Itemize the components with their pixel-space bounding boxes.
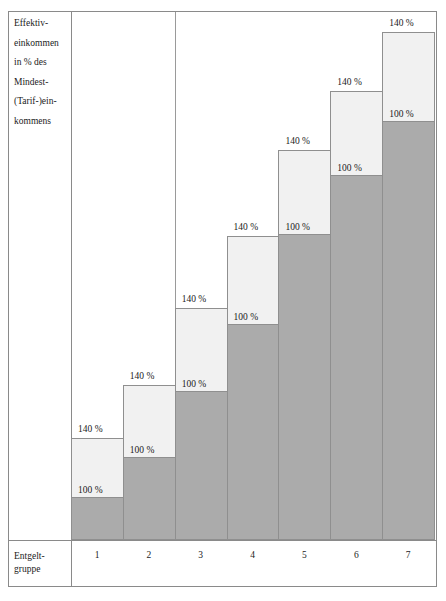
- y-axis-caption-line: Effektiv-: [14, 14, 70, 34]
- bar-label-lower-5: 100 %: [285, 222, 310, 232]
- bar-segment-lower-2: [123, 458, 176, 540]
- bar-segment-lower-4: [227, 325, 280, 540]
- footer-row-divider: [9, 540, 436, 541]
- bar-label-lower-6: 100 %: [337, 163, 362, 173]
- bar-segment-lower-6: [330, 176, 383, 540]
- bar-label-lower-7: 100 %: [389, 109, 414, 119]
- bar-group-6[interactable]: [330, 91, 383, 540]
- bar-group-4[interactable]: [227, 236, 280, 540]
- bar-label-upper-1: 140 %: [78, 424, 103, 434]
- clipped-header-strip: ·················: [180, 0, 446, 5]
- y-axis-caption-line: einkommen: [14, 34, 70, 54]
- bar-label-lower-2: 100 %: [130, 445, 155, 455]
- y-axis-caption: Effektiv- einkommen in % des Mindest- (T…: [14, 14, 70, 131]
- bar-group-5[interactable]: [278, 150, 331, 540]
- y-axis-caption-line: kommens: [14, 112, 70, 132]
- bar-label-upper-6: 140 %: [337, 77, 362, 87]
- y-axis-caption-line: in % des: [14, 53, 70, 73]
- bar-label-lower-3: 100 %: [182, 379, 207, 389]
- bar-segment-lower-3: [175, 392, 228, 540]
- bar-segment-lower-1: [71, 498, 124, 540]
- bar-label-upper-7: 140 %: [389, 18, 414, 28]
- bar-group-3[interactable]: [175, 308, 228, 540]
- bar-group-2[interactable]: [123, 385, 176, 540]
- x-axis-caption-line: gruppe: [14, 563, 70, 576]
- x-axis-caption-line: Entgelt-: [14, 550, 70, 563]
- bar-label-upper-3: 140 %: [182, 294, 207, 304]
- bar-label-lower-4: 100 %: [234, 312, 259, 322]
- bar-label-upper-5: 140 %: [285, 136, 310, 146]
- bar-segment-lower-5: [278, 235, 331, 540]
- y-axis-caption-line: Mindest-: [14, 73, 70, 93]
- y-axis-caption-line: (Tarif-)ein-: [14, 92, 70, 112]
- bar-segment-lower-7: [382, 122, 435, 540]
- bar-label-lower-1: 100 %: [78, 485, 103, 495]
- interior-vertical-rule: [175, 12, 176, 308]
- bar-label-upper-2: 140 %: [130, 371, 155, 381]
- bar-label-upper-4: 140 %: [234, 222, 259, 232]
- x-axis-caption: Entgelt- gruppe: [14, 550, 70, 575]
